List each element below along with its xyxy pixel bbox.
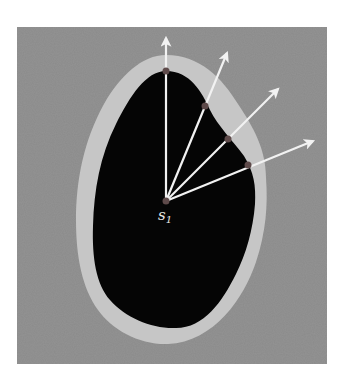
star-region-diagram: s1 (0, 0, 347, 384)
boundary-point-2 (202, 103, 209, 110)
seed-label-subscript: 1 (166, 214, 172, 225)
boundary-point-1 (163, 68, 170, 75)
boundary-point-4 (245, 162, 252, 169)
seed-point (163, 198, 170, 205)
boundary-point-3 (225, 136, 232, 143)
